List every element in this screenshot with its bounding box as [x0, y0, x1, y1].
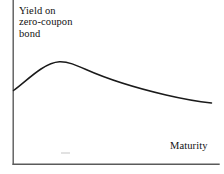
yield-curve-line — [14, 62, 212, 103]
scan-artifact — [61, 152, 70, 154]
data-series-group — [14, 62, 212, 103]
yield-curve-figure: Yield on zero-coupon bond Maturity — [0, 0, 224, 174]
x-axis-label: Maturity — [170, 140, 208, 152]
y-axis-label: Yield on zero-coupon bond — [19, 5, 73, 39]
